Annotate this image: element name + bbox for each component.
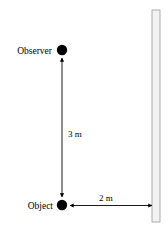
diagram-canvas: Observer Object 3 m 2 m [0, 0, 168, 231]
horizontal-distance-label: 2 m [99, 193, 113, 203]
physics-diagram: Observer Object 3 m 2 m [0, 0, 168, 231]
mirror-wall [152, 10, 160, 222]
object-dot [57, 200, 67, 210]
observer-dot [57, 45, 67, 55]
vertical-distance-label: 3 m [68, 129, 82, 139]
observer-label: Observer [17, 46, 53, 56]
object-label: Object [28, 201, 54, 211]
